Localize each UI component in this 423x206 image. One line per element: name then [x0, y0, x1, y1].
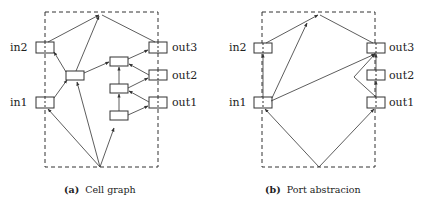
- label-out3: out3: [172, 41, 197, 54]
- edges-port-abstraction: [263, 15, 376, 167]
- port-out2: [367, 70, 385, 80]
- caption-b-text: Port abstracion: [287, 184, 361, 195]
- port-out1: [149, 97, 167, 108]
- port-out2: [149, 70, 167, 80]
- port-in1: [254, 97, 272, 108]
- caption-b: (b) Port abstracion: [265, 184, 361, 195]
- label-out2: out2: [389, 69, 414, 82]
- port-out3: [367, 43, 385, 53]
- port-abstraction-panel: in2 in1 out3 out2 out1 (b) Port abstraci…: [229, 12, 414, 195]
- figure-canvas: in2 in1 out3 out2 out1 (a) Cell graph: [0, 0, 423, 206]
- port-in1: [36, 97, 54, 108]
- edges-cell-graph: [48, 15, 155, 167]
- label-in2: in2: [229, 41, 247, 54]
- cell-mid-right: [110, 84, 128, 93]
- label-out1: out1: [172, 96, 197, 109]
- cell-top: [110, 57, 128, 66]
- label-out2: out2: [172, 69, 197, 82]
- label-in2: in2: [10, 41, 28, 54]
- caption-a-tag: (a): [64, 184, 79, 195]
- caption-a-text: Cell graph: [85, 184, 135, 195]
- port-in2: [254, 43, 272, 53]
- label-in1: in1: [229, 96, 247, 109]
- label-in1: in1: [10, 96, 28, 109]
- port-out1: [367, 97, 385, 108]
- cell-bottom: [110, 111, 128, 120]
- port-out3: [149, 42, 167, 53]
- cell-graph-panel: in2 in1 out3 out2 out1 (a) Cell graph: [10, 12, 197, 195]
- label-out3: out3: [389, 41, 414, 54]
- caption-b-tag: (b): [265, 184, 281, 195]
- label-out1: out1: [389, 96, 414, 109]
- cell-middle: [66, 71, 84, 80]
- caption-a: (a) Cell graph: [64, 184, 136, 195]
- port-in2: [36, 42, 54, 53]
